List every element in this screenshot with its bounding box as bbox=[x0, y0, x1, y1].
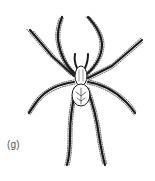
figure-label: (g) bbox=[7, 139, 20, 150]
cephalothorax bbox=[75, 66, 87, 86]
spider-figure: (g) bbox=[0, 0, 155, 181]
spider-drawing-icon bbox=[0, 0, 155, 181]
